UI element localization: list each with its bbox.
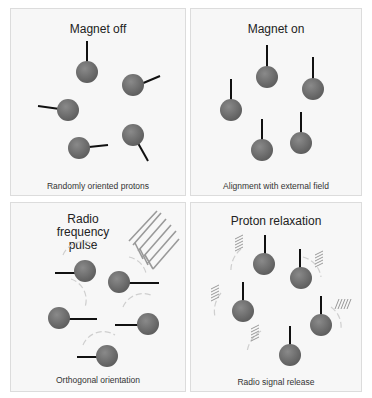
- panel-magnet-off: Magnet off Randomly oriented protons: [10, 8, 186, 196]
- panel-caption: Orthogonal orientation: [11, 375, 185, 385]
- proton-spheres: [220, 66, 324, 161]
- proton-spheres: [48, 260, 159, 367]
- proton-icon: [290, 132, 312, 154]
- proton-icon: [57, 99, 79, 121]
- proton-spheres: [57, 61, 144, 159]
- proton-icon: [68, 137, 90, 159]
- proton-icon: [122, 124, 144, 146]
- relaxation-illustration: [191, 203, 363, 393]
- proton-icon: [279, 344, 301, 366]
- rotation-arcs: [63, 242, 151, 345]
- proton-icon: [122, 74, 144, 96]
- proton-icon: [137, 313, 159, 335]
- random-protons-illustration: [11, 9, 187, 197]
- proton-icon: [232, 300, 254, 322]
- proton-icon: [310, 314, 332, 336]
- proton-icon: [108, 271, 130, 293]
- panel-caption: Randomly oriented protons: [11, 181, 185, 191]
- rf-pulse-illustration: [11, 203, 187, 393]
- proton-icon: [253, 253, 275, 275]
- rf-wave-icon: [129, 211, 179, 269]
- panel-proton-relaxation: Proton relaxation: [190, 202, 362, 392]
- proton-icon: [290, 267, 312, 289]
- proton-icon: [74, 260, 96, 282]
- aligned-protons-illustration: [191, 9, 363, 197]
- proton-icon: [96, 345, 118, 367]
- proton-icon: [220, 99, 242, 121]
- panel-magnet-on: Magnet on Alignment with external field: [190, 8, 362, 196]
- panel-caption: Radio signal release: [191, 377, 361, 387]
- signal-arcs: [214, 249, 341, 353]
- proton-icon: [302, 78, 324, 100]
- proton-icon: [251, 139, 273, 161]
- proton-icon: [48, 307, 70, 329]
- proton-icon: [76, 61, 98, 83]
- proton-icon: [256, 66, 278, 88]
- panel-caption: Alignment with external field: [191, 181, 361, 191]
- panel-radio-frequency-pulse: Radio frequency pulse: [10, 202, 186, 392]
